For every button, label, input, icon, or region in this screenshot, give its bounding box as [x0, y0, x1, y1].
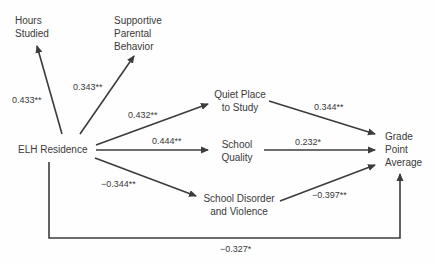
node-label-line: Point — [385, 143, 422, 156]
coef-school-disorder-gpa: −0.397** — [312, 190, 347, 201]
node-label-line: to Study — [208, 101, 272, 114]
node-grade-point-average: Grade Point Average — [385, 130, 422, 169]
node-label-line: Average — [385, 156, 422, 169]
coef-elh-school-quality: 0.444** — [152, 136, 182, 147]
node-label-line: Studied — [15, 27, 49, 40]
node-school-disorder-and-violence: School Disorder and Violence — [199, 192, 279, 218]
node-label-line: Grade — [385, 130, 422, 143]
node-label-line: Supportive — [114, 14, 162, 27]
node-hours-studied: Hours Studied — [15, 14, 49, 40]
node-label-line: School Disorder — [199, 192, 279, 205]
coef-quiet-place-gpa: 0.344** — [314, 102, 344, 113]
edges-layer — [0, 0, 435, 264]
node-label-line: Quiet Place — [208, 88, 272, 101]
node-elh-residence: ELH Residence — [18, 143, 87, 156]
node-label-line: Parental — [114, 27, 162, 40]
path-diagram: Hours Studied Supportive Parental Behavi… — [0, 0, 435, 264]
edge-elh-to-supportive-parental — [80, 56, 134, 134]
coef-elh-gpa: −0.327* — [220, 244, 251, 255]
coef-elh-school-disorder: −0.344** — [101, 179, 136, 190]
node-label: ELH Residence — [18, 143, 87, 156]
coef-school-quality-gpa: 0.232* — [295, 137, 321, 148]
node-label-line: School — [212, 138, 262, 151]
coef-elh-quiet-place: 0.432** — [128, 110, 158, 121]
node-label-line: Hours — [15, 14, 49, 27]
node-label-line: and Violence — [199, 205, 279, 218]
node-label-line: Behavior — [114, 40, 162, 53]
edge-elh-to-hours-studied — [37, 46, 62, 134]
node-school-quality: School Quality — [212, 138, 262, 164]
node-label-line: Quality — [212, 151, 262, 164]
edge-elh-to-school-disorder — [95, 158, 196, 196]
coef-elh-supportive-parental: 0.343** — [73, 82, 103, 93]
coef-elh-hours-studied: 0.433** — [12, 95, 42, 106]
node-quiet-place-to-study: Quiet Place to Study — [208, 88, 272, 114]
node-supportive-parental-behavior: Supportive Parental Behavior — [114, 14, 162, 53]
